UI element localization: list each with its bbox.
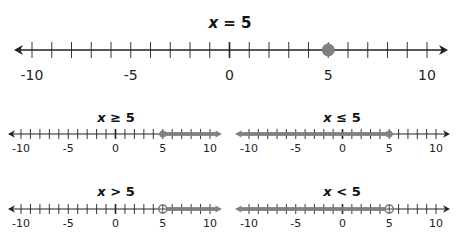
inequality-title: x ≤ 5: [322, 110, 360, 125]
tick-label: -10: [240, 217, 258, 230]
number-line-gt: x > 5-10-50510: [8, 184, 222, 230]
tick-label: 5: [386, 217, 393, 230]
tick-label: -10: [12, 217, 30, 230]
tick-label: -5: [290, 217, 301, 230]
tick-label: 10: [429, 142, 443, 155]
inequality-title: x = 5: [207, 14, 251, 32]
closed-point-icon: [322, 44, 335, 57]
tick-label: -10: [240, 142, 258, 155]
inequality-title: x > 5: [96, 184, 134, 199]
tick-label: 10: [429, 217, 443, 230]
closed-point-icon: [386, 131, 393, 138]
tick-label: 5: [386, 142, 393, 155]
tick-label: 0: [225, 67, 234, 83]
tick-label: 5: [159, 217, 166, 230]
tick-label: -5: [63, 217, 74, 230]
closed-point-icon: [159, 131, 166, 138]
tick-label: -5: [290, 142, 301, 155]
number-line-le: x ≤ 5-10-50510: [235, 110, 450, 155]
number-line-eq: x = 5-10-50510: [14, 14, 448, 83]
tick-label: 10: [203, 142, 217, 155]
tick-label: -5: [124, 67, 138, 83]
inequality-title: x ≥ 5: [96, 110, 134, 125]
tick-label: 0: [339, 217, 346, 230]
number-line-ge: x ≥ 5-10-50510: [8, 110, 222, 155]
tick-label: 0: [112, 217, 119, 230]
tick-label: -5: [63, 142, 74, 155]
inequality-title: x < 5: [322, 184, 360, 199]
tick-label: -10: [12, 142, 30, 155]
number-line-lt: x < 5-10-50510: [235, 184, 450, 230]
tick-label: 10: [418, 67, 436, 83]
tick-label: 5: [324, 67, 333, 83]
tick-label: 0: [339, 142, 346, 155]
tick-label: 10: [203, 217, 217, 230]
tick-label: 5: [159, 142, 166, 155]
tick-label: 0: [112, 142, 119, 155]
tick-label: -10: [21, 67, 44, 83]
number-line-diagram: x = 5-10-50510x ≥ 5-10-50510x ≤ 5-10-505…: [0, 0, 470, 243]
